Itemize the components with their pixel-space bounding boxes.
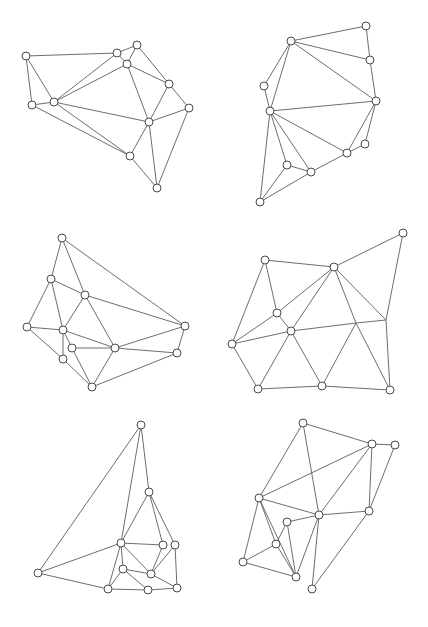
graph-node xyxy=(283,518,291,526)
graph-edge xyxy=(38,425,141,573)
graph-node xyxy=(372,97,380,105)
graph-edge xyxy=(108,543,121,589)
graph-node xyxy=(144,586,152,594)
graph-edge xyxy=(63,295,85,330)
graph-edge xyxy=(243,498,259,562)
graph-edge xyxy=(296,515,319,577)
graph-node xyxy=(272,540,280,548)
graph-edge xyxy=(92,353,177,387)
graph-edge xyxy=(322,323,356,386)
graph-edge xyxy=(265,260,334,267)
graph-edge xyxy=(130,156,157,188)
graph-edge xyxy=(27,279,51,327)
graph-node xyxy=(366,56,374,64)
graph-node xyxy=(23,323,31,331)
graph-edge xyxy=(291,331,322,386)
graph-5-nodes xyxy=(34,421,181,594)
graph-edge xyxy=(108,589,148,590)
graph-node xyxy=(287,37,295,45)
graph-node xyxy=(181,322,189,330)
graph-edge xyxy=(311,153,347,172)
graph-node xyxy=(283,161,291,169)
edges-layer xyxy=(26,26,403,590)
graph-2-edges xyxy=(260,26,376,202)
graph-edge xyxy=(365,101,376,144)
graph-node xyxy=(318,382,326,390)
graph-node xyxy=(260,82,268,90)
graph-node xyxy=(173,584,181,592)
graph-edge xyxy=(265,260,277,313)
graph-node xyxy=(365,507,373,515)
graph-node xyxy=(28,101,36,109)
graph-edge xyxy=(386,233,403,320)
graph-1-edges xyxy=(26,45,189,188)
graph-edge xyxy=(260,111,270,202)
graph-node xyxy=(273,309,281,317)
graph-edge xyxy=(149,122,157,188)
graph-edge xyxy=(259,423,303,498)
graph-node xyxy=(292,573,300,581)
graph-edge xyxy=(312,511,369,589)
graph-node xyxy=(165,80,173,88)
graph-node xyxy=(287,327,295,335)
graph-node xyxy=(88,383,96,391)
graph-node xyxy=(343,149,351,157)
graph-edge xyxy=(38,573,108,589)
graph-edge xyxy=(149,492,163,545)
graph-edge xyxy=(260,172,311,202)
graph-node xyxy=(123,60,131,68)
graph-node xyxy=(147,570,155,578)
graph-edge xyxy=(26,53,117,56)
graph-node xyxy=(47,275,55,283)
graph-edge xyxy=(92,348,115,387)
graph-edge xyxy=(232,260,265,344)
graph-edge xyxy=(151,545,163,574)
graph-edge xyxy=(121,543,163,545)
graph-node xyxy=(153,184,161,192)
graph-edge xyxy=(291,41,376,101)
graph-node xyxy=(50,98,58,106)
graph-node xyxy=(299,419,307,427)
graph-edge xyxy=(27,327,63,330)
graph-edge xyxy=(63,359,92,387)
graph-edge xyxy=(303,423,372,444)
graph-node xyxy=(171,541,179,549)
graph-5-edges xyxy=(38,425,177,590)
graph-edge xyxy=(334,267,356,323)
graph-edge xyxy=(259,498,319,515)
graph-edge xyxy=(291,323,356,331)
graph-node xyxy=(159,541,167,549)
graph-edge xyxy=(291,41,370,60)
graph-edge xyxy=(386,320,390,390)
graph-edge xyxy=(115,326,185,348)
graph-edge xyxy=(369,445,395,511)
graph-edge xyxy=(54,53,117,102)
graph-edge xyxy=(157,108,189,188)
graph-node xyxy=(266,107,274,115)
graph-4-edges xyxy=(232,233,403,390)
graph-node xyxy=(368,440,376,448)
graph-edge xyxy=(141,425,149,492)
graph-edge xyxy=(27,327,63,359)
graph-node xyxy=(185,104,193,112)
graph-node xyxy=(391,441,399,449)
graph-edge xyxy=(32,105,130,156)
graph-edge xyxy=(270,101,376,111)
graph-edge xyxy=(259,444,372,498)
graph-edge xyxy=(259,498,296,577)
graph-node xyxy=(361,140,369,148)
graph-3-nodes xyxy=(23,234,189,391)
graph-edge xyxy=(137,45,169,84)
graph-node xyxy=(315,511,323,519)
graph-edge xyxy=(334,267,386,320)
graph-edge xyxy=(258,386,322,389)
graph-1-nodes xyxy=(22,41,193,192)
graph-edge xyxy=(169,84,189,108)
graph-node xyxy=(117,539,125,547)
graph-edge xyxy=(54,64,127,102)
graph-node xyxy=(173,349,181,357)
graph-edge xyxy=(322,386,390,390)
graph-edge xyxy=(26,56,32,105)
graph-node xyxy=(307,168,315,176)
graph-node xyxy=(228,340,236,348)
